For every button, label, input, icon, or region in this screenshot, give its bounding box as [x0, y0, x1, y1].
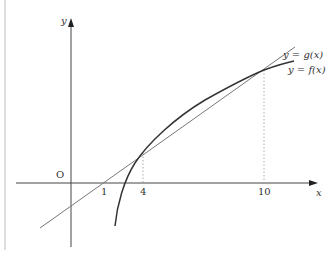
x-axis: [16, 180, 318, 186]
x-tick-4: 4: [140, 186, 146, 197]
x-tick-10: 10: [258, 186, 271, 197]
origin-label: O: [56, 169, 64, 180]
curve-f: [115, 61, 294, 226]
y-axis-arrow-icon: [68, 18, 74, 27]
x-tick-1: 1: [101, 186, 107, 197]
x-axis-arrow-icon: [309, 180, 318, 186]
y-axis: [68, 18, 74, 247]
function-graph: y x O 1 4 10 y = g(x) y = f(x): [0, 0, 336, 257]
y-axis-label: y: [60, 15, 67, 26]
line-g: [40, 47, 295, 228]
x-axis-label: x: [316, 187, 322, 198]
label-f: y = f(x): [287, 64, 326, 75]
label-g: y = g(x): [282, 49, 323, 60]
